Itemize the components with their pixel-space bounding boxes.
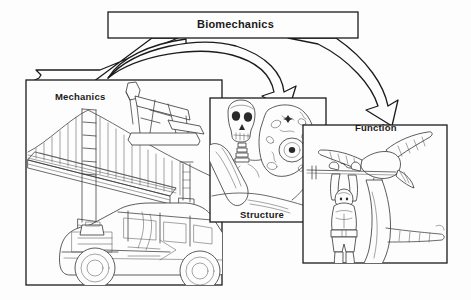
arrow-biomechanics-to-mechanics <box>31 38 178 82</box>
diagram-artwork: .bx{fill:#fdfdfd;stroke:#1b1b1b;stroke-w… <box>0 0 471 300</box>
biomechanics-diagram: .bx{fill:#fdfdfd;stroke:#1b1b1b;stroke-w… <box>0 0 471 300</box>
car-front-wheel <box>75 248 115 288</box>
biomechanics-title-box <box>108 12 358 38</box>
car-rear-wheel <box>180 251 220 291</box>
